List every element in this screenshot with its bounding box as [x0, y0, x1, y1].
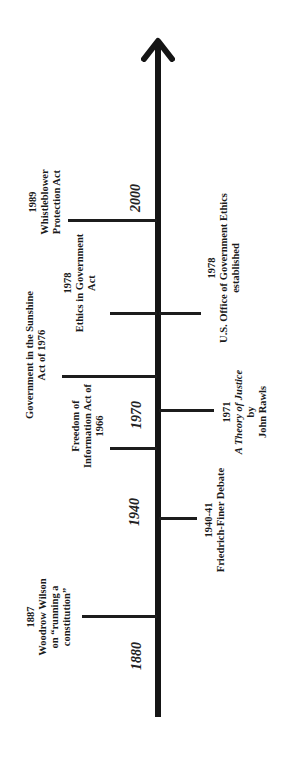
- tick-ethics-act: [110, 312, 157, 315]
- event-text: Act of 1976: [36, 291, 48, 419]
- event-friedrich-finer: 1940-41 Friedrich-Finer Debate: [203, 468, 227, 572]
- year-marker-1940: 1940: [127, 498, 143, 526]
- event-text: Woodrow Wilson: [37, 578, 49, 655]
- event-year: 1966: [94, 384, 106, 468]
- event-text: established: [230, 193, 242, 343]
- event-text: by: [245, 370, 257, 454]
- event-text: Ethics in Government: [74, 234, 86, 333]
- year-marker-1880: 1880: [129, 642, 145, 670]
- event-ethics-act: 1978 Ethics in Government Act: [62, 234, 98, 333]
- event-text: constitution”: [61, 578, 73, 655]
- year-marker-1970: 1970: [129, 401, 145, 429]
- tick-rawls: [159, 409, 214, 412]
- tick-friedrich-finer: [159, 517, 197, 520]
- tick-oge: [159, 312, 201, 315]
- event-wilson: 1887 Woodrow Wilson on “running a consti…: [25, 578, 73, 655]
- event-foia: Freedom of Information Act of 1966: [70, 384, 106, 468]
- tick-foia: [110, 447, 157, 450]
- event-year: 1978: [206, 193, 218, 343]
- arrow-up-icon: [141, 36, 175, 62]
- timeline-diagram: 2000 1970 1940 1880 1989 Whistleblower P…: [0, 0, 289, 760]
- event-text: Act: [86, 234, 98, 333]
- event-text: U.S. Office of Government Ethics: [218, 193, 230, 343]
- event-text: Government in the Sunshine: [24, 291, 36, 419]
- tick-whistleblower: [68, 219, 157, 222]
- event-whistleblower: 1989 Whistleblower Protection Act: [27, 169, 63, 234]
- event-book-title: A Theory of Justice: [233, 370, 245, 454]
- event-author: John Rawls: [257, 370, 269, 454]
- event-year: 1887: [25, 578, 37, 655]
- event-text: Freedom of: [70, 384, 82, 468]
- event-text: Protection Act: [51, 169, 63, 234]
- event-text: Information Act of: [82, 384, 94, 468]
- year-marker-2000: 2000: [128, 184, 144, 212]
- tick-sunshine: [62, 375, 157, 378]
- event-year: 1978: [62, 234, 74, 333]
- event-text: Friedrich-Finer Debate: [215, 468, 227, 572]
- event-text: Whistleblower: [39, 169, 51, 234]
- event-sunshine: Government in the Sunshine Act of 1976: [24, 291, 48, 419]
- tick-wilson: [82, 615, 157, 618]
- event-oge: 1978 U.S. Office of Government Ethics es…: [206, 193, 242, 343]
- event-year: 1940-41: [203, 468, 215, 572]
- event-year: 1989: [27, 169, 39, 234]
- event-text: on “running a: [49, 578, 61, 655]
- event-year: 1971: [221, 370, 233, 454]
- event-rawls: 1971 A Theory of Justice by John Rawls: [221, 370, 269, 454]
